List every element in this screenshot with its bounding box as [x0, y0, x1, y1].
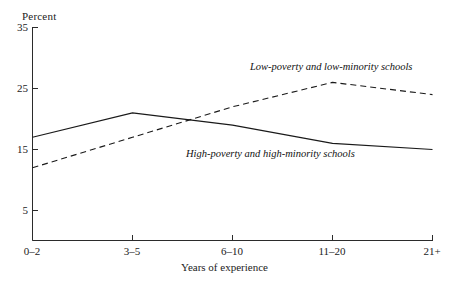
series-annotation-high-poverty: High-poverty and high-minority schools: [186, 148, 355, 159]
chart-figure: Percent 35 25 15 5 0–2 3–5 6–10 11–20 21…: [0, 0, 449, 282]
series-line-high-poverty: [33, 113, 433, 150]
y-axis-ticks: [33, 28, 39, 211]
series-annotation-low-poverty: Low-poverty and low-minority schools: [250, 61, 412, 72]
axis-lines: [33, 27, 434, 241]
x-axis-ticks: [33, 235, 433, 241]
plot-area: [0, 0, 449, 282]
x-axis-title: Years of experience: [0, 261, 449, 273]
